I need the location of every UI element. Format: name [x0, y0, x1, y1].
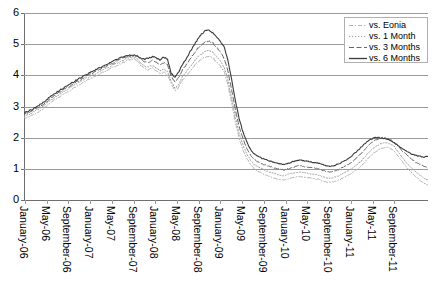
y-axis-label-0: 0 [0, 194, 19, 204]
legend-label: vs. 3 Months [368, 43, 420, 52]
x-tick-mark-9 [220, 200, 221, 204]
x-tick-mark-5 [134, 200, 135, 204]
x-axis-label-11: September-09 [258, 206, 268, 273]
x-tick-mark-10 [242, 200, 243, 204]
x-axis-label-2: September-06 [62, 206, 72, 273]
y-axis-label-3: 3 [0, 101, 19, 111]
x-tick-mark-1 [47, 200, 48, 204]
x-axis-label-17: September-11 [388, 206, 398, 272]
chart-container: 6543210 January-06May-06September-06Janu… [0, 0, 434, 289]
x-axis-label-3: January-07 [84, 206, 94, 259]
legend-item-vs-6-months[interactable]: vs. 6 Months [348, 53, 425, 64]
y-axis-label-1: 1 [0, 163, 19, 173]
x-axis-label-4: May-07 [106, 206, 116, 241]
x-tick-mark-13 [307, 200, 308, 204]
x-tick-mark-3 [90, 200, 91, 204]
legend-swatch-icon [348, 21, 368, 30]
x-axis-label-5: September-07 [128, 206, 138, 273]
x-axis-label-14: September-10 [323, 206, 333, 273]
y-axis-label-5: 5 [0, 38, 19, 48]
x-tick-mark-7 [177, 200, 178, 204]
x-tick-mark-16 [373, 200, 374, 204]
x-tick-mark-6 [155, 200, 156, 204]
x-axis-label-7: May-08 [171, 206, 181, 241]
legend-swatch-icon [348, 43, 368, 52]
x-axis-label-12: January-10 [280, 206, 290, 259]
y-axis-label-6: 6 [0, 7, 19, 17]
x-tick-mark-14 [329, 200, 330, 204]
x-axis-label-15: January-11 [345, 206, 355, 258]
legend-item-vs-3-months[interactable]: vs. 3 Months [348, 42, 425, 53]
legend-label: vs. Eonia [368, 21, 406, 30]
y-axis-label-4: 4 [0, 69, 19, 79]
x-tick-mark-12 [286, 200, 287, 204]
legend-label: vs. 1 Month [368, 32, 416, 41]
chart-legend: vs. Eoniavs. 1 Monthvs. 3 Monthsvs. 6 Mo… [344, 17, 428, 63]
x-tick-mark-2 [68, 200, 69, 204]
legend-swatch-icon [348, 54, 368, 63]
x-axis-label-6: January-08 [149, 206, 159, 259]
y-axis-label-2: 2 [0, 132, 19, 142]
x-axis-label-8: September-08 [193, 206, 203, 273]
x-axis-label-0: January-06 [19, 206, 29, 259]
x-axis-label-10: May-09 [236, 206, 246, 241]
x-tick-mark-8 [199, 200, 200, 204]
x-tick-mark-4 [112, 200, 113, 204]
x-tick-mark-15 [351, 200, 352, 204]
x-tick-mark-11 [264, 200, 265, 204]
legend-swatch-icon [348, 32, 368, 41]
x-axis-label-1: May-06 [41, 206, 51, 241]
x-axis-label-9: January-09 [214, 206, 224, 259]
legend-item-vs-1-month[interactable]: vs. 1 Month [348, 31, 425, 42]
series-line-vs-1-month [24, 50, 428, 180]
legend-label: vs. 6 Months [368, 54, 420, 63]
legend-item-vs-eonia[interactable]: vs. Eonia [348, 20, 425, 31]
x-axis-label-13: May-10 [301, 206, 311, 241]
x-tick-mark-0 [25, 200, 26, 204]
x-tick-mark-17 [394, 200, 395, 204]
x-axis-label-16: May-11 [367, 206, 377, 240]
